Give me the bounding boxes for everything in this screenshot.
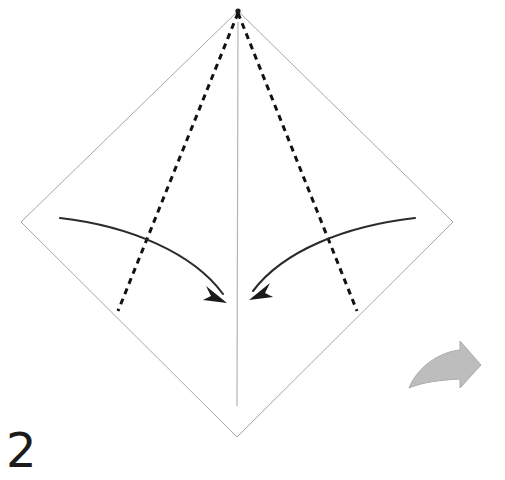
origami-diagram-svg [0,0,505,480]
next-step-arrow-shape [409,341,481,388]
next-step-arrow [409,341,481,388]
apex-point-dot [235,8,240,13]
origami-diagram-canvas: 2 [0,0,505,480]
step-number-label: 2 [6,424,37,476]
